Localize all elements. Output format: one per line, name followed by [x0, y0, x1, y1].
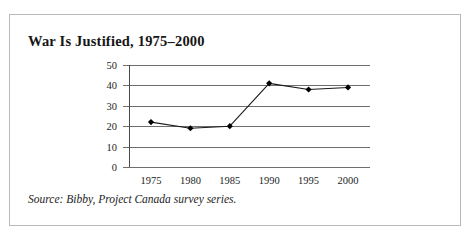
y-tick-mark-0: [123, 167, 129, 168]
series-markers: [148, 80, 351, 131]
x-axis-tick-label: 1980: [180, 175, 201, 186]
data-point-marker-1995: [306, 86, 312, 92]
y-axis-tick-label: 0: [112, 162, 117, 173]
series-line: [151, 83, 348, 128]
data-point-marker-2000: [345, 84, 351, 90]
y-axis-tick-label: 30: [107, 100, 118, 111]
data-series-war-is-justified: [123, 65, 370, 167]
source-note: Source: Bibby, Project Canada survey ser…: [28, 193, 236, 205]
x-axis-tick-label: 1975: [141, 175, 162, 186]
x-axis-tick-label: 1995: [298, 175, 319, 186]
y-axis-tick-label: 50: [107, 60, 118, 71]
y-axis-tick-label: 10: [107, 141, 118, 152]
y-axis-tick-label: 40: [107, 80, 118, 91]
plot-area: 01020304050 197519801985199019952000: [123, 65, 370, 167]
data-point-marker-1980: [187, 125, 193, 131]
y-axis-tick-label: 20: [107, 121, 118, 132]
figure-border: War Is Justified, 1975–2000 01020304050 …: [9, 14, 461, 226]
x-axis-tick-label: 2000: [338, 175, 359, 186]
x-axis-tick-label: 1990: [259, 175, 280, 186]
gridline-0: [129, 167, 370, 168]
chart-title: War Is Justified, 1975–2000: [28, 33, 205, 50]
data-point-marker-1975: [148, 119, 154, 125]
x-axis-tick-label: 1985: [219, 175, 240, 186]
